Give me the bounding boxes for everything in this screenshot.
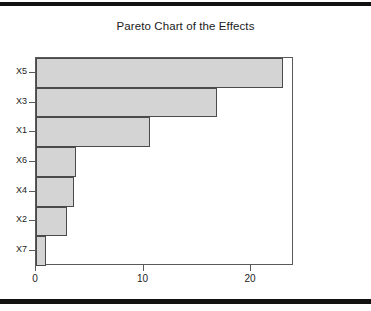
bar-x6 [36, 147, 76, 177]
y-tick-x3 [29, 102, 35, 103]
bar-x3 [36, 88, 217, 118]
x-tick-label-10: 10 [123, 273, 163, 284]
y-tick-label-x2: X2 [0, 214, 27, 224]
y-tick-label-x7: X7 [0, 244, 27, 254]
bar-x7 [36, 236, 46, 266]
chart-title: Pareto Chart of the Effects [0, 20, 371, 32]
y-tick-x4 [29, 191, 35, 192]
figure-page: Pareto Chart of the Effects X5X3X1X6X4X2… [0, 0, 371, 311]
x-tick-label-20: 20 [230, 273, 270, 284]
y-tick-x6 [29, 161, 35, 162]
page-edge-band-bottom [0, 299, 371, 304]
x-tick-10 [143, 265, 144, 271]
bar-x2 [36, 207, 67, 237]
y-tick-label-x3: X3 [0, 96, 27, 106]
y-tick-label-x6: X6 [0, 155, 27, 165]
y-tick-label-x1: X1 [0, 125, 27, 135]
bar-x1 [36, 117, 150, 147]
x-tick-20 [250, 265, 251, 271]
x-tick-label-0: 0 [15, 273, 55, 284]
x-tick-0 [35, 265, 36, 271]
y-tick-label-x5: X5 [0, 66, 27, 76]
bar-x5 [36, 58, 283, 88]
plot-area [35, 57, 293, 265]
bar-x4 [36, 177, 74, 207]
y-tick-x2 [29, 220, 35, 221]
y-tick-x5 [29, 72, 35, 73]
bars-layer [36, 58, 292, 264]
page-edge-band-top [0, 2, 371, 6]
y-tick-x7 [29, 250, 35, 251]
y-tick-label-x4: X4 [0, 185, 27, 195]
y-tick-x1 [29, 131, 35, 132]
